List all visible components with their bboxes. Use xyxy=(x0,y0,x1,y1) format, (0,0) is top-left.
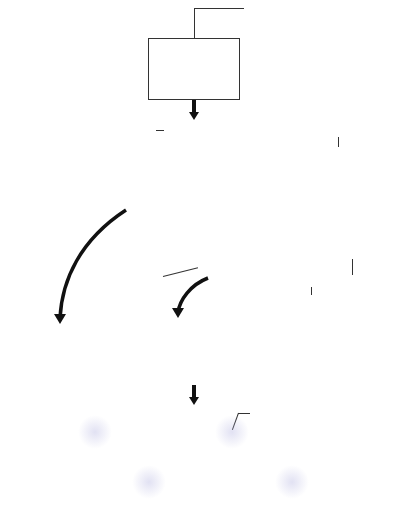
ligase-ring xyxy=(215,415,249,449)
ligase-ring xyxy=(132,465,166,499)
ligase-callout-line xyxy=(238,413,250,414)
down-arrow-stem xyxy=(192,385,196,397)
ligase-ring xyxy=(275,465,309,499)
down-arrow-icon xyxy=(189,397,199,405)
curved-arrows xyxy=(0,0,397,511)
ligase-ring xyxy=(78,415,112,449)
